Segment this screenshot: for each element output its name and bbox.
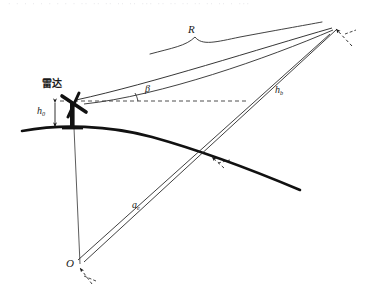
slant-range-label: R — [188, 24, 195, 35]
earth-radius-label: ae — [132, 200, 140, 211]
earth-radius-line-to-surface — [78, 34, 330, 260]
origin-label: O — [66, 258, 74, 269]
target-height-label: hb — [275, 85, 283, 96]
vertical-radius-line-to-radar — [74, 128, 80, 264]
radar-station-label: 雷达 — [42, 79, 62, 89]
radar-height-label: h0 — [37, 106, 45, 117]
radar-geometry-figure: · · · · · · · · · ·· ·· ·· ·· ·· ··· ·· … — [0, 0, 365, 299]
origin-angle-arrow — [80, 268, 96, 284]
target-marker-arrow — [336, 29, 356, 46]
target-height-subscript: b — [280, 89, 283, 96]
earth-surface-arc — [22, 127, 300, 190]
slant-range-line — [76, 28, 332, 100]
elevation-angle-arc — [135, 93, 138, 101]
elevation-angle-label: β — [145, 84, 150, 94]
earth-radius-line-to-target — [84, 30, 336, 262]
radar-height-subscript: 0 — [42, 110, 45, 117]
earth-radius-subscript: e — [137, 204, 140, 211]
figure-canvas — [0, 0, 365, 299]
